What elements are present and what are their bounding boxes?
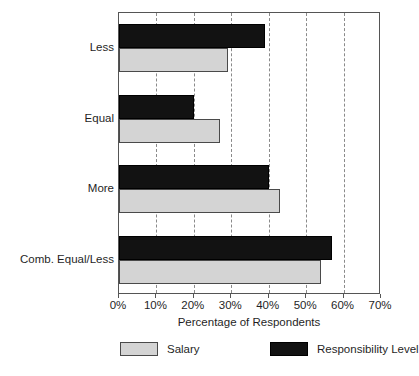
plot-area <box>118 12 380 294</box>
bar-responsibility-equal <box>119 95 194 119</box>
x-tick-label-70: 70% <box>368 299 391 312</box>
x-tick-70 <box>380 294 381 298</box>
bar-responsibility-less <box>119 24 265 48</box>
x-tick-label-50: 50% <box>294 299 317 312</box>
gridline-60 <box>344 13 345 293</box>
legend-label-resp: Responsibility Level <box>317 343 419 355</box>
legend-item-resp: Responsibility Level <box>270 341 419 357</box>
x-tick-50 <box>305 294 306 298</box>
legend-swatch-resp <box>270 342 308 356</box>
chart-legend: SalaryResponsibility Level <box>120 341 405 359</box>
x-tick-label-10: 10% <box>144 299 167 312</box>
bar-salary-more <box>119 189 280 213</box>
x-tick-40 <box>268 294 269 298</box>
x-tick-60 <box>343 294 344 298</box>
x-tick-label-60: 60% <box>331 299 354 312</box>
category-axis-labels: LessEqualMoreComb. Equal/Less <box>0 12 114 294</box>
x-axis-title: Percentage of Respondents <box>118 316 380 328</box>
bar-salary-equal <box>119 119 220 143</box>
category-label-4: Comb. Equal/Less <box>2 253 114 265</box>
bar-responsibility-more <box>119 165 269 189</box>
x-tick-label-40: 40% <box>256 299 279 312</box>
legend-item-salary: Salary <box>120 341 200 357</box>
bar-salary-less <box>119 48 228 72</box>
bar-salary-comb-equal-less <box>119 260 321 284</box>
category-label-2: Equal <box>2 112 114 124</box>
category-label-3: More <box>2 182 114 194</box>
x-tick-label-30: 30% <box>219 299 242 312</box>
x-tick-label-20: 20% <box>181 299 204 312</box>
x-tick-30 <box>230 294 231 298</box>
x-tick-0 <box>118 294 119 298</box>
x-tick-label-0: 0% <box>110 299 127 312</box>
legend-swatch-salary <box>120 342 158 356</box>
x-tick-20 <box>193 294 194 298</box>
bar-responsibility-comb-equal-less <box>119 236 332 260</box>
x-tick-10 <box>155 294 156 298</box>
legend-label-salary: Salary <box>167 343 200 355</box>
category-label-1: Less <box>2 41 114 53</box>
